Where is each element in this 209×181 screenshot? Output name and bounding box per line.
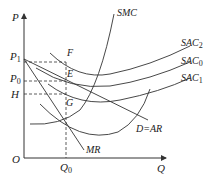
demand-ar-line <box>24 59 148 120</box>
y-axis-label: P <box>12 12 19 23</box>
point-g-label: G <box>66 98 73 108</box>
sac1-label: SAC1 <box>181 73 203 85</box>
q0-label: Q0 <box>60 162 72 175</box>
point-f-label: F <box>67 48 73 58</box>
mr-label: MR <box>86 145 100 155</box>
p1-label: P1 <box>10 51 21 64</box>
sac0-label: SAC0 <box>181 56 203 68</box>
lac-curve <box>40 89 150 135</box>
economics-diagram: P Q O P1 P0 H Q0 SMC SAC2 SAC0 SAC1 D=AR… <box>0 0 209 181</box>
diagram-canvas <box>0 0 209 181</box>
sac0-curve <box>36 62 190 87</box>
p0-label: P0 <box>10 73 21 86</box>
point-e-label: E <box>67 69 73 79</box>
mr-line <box>24 59 84 150</box>
sac2-label: SAC2 <box>181 38 203 50</box>
x-axis-label: Q <box>157 163 165 174</box>
origin-label: O <box>12 154 20 165</box>
smc-label: SMC <box>117 8 137 18</box>
h-label: H <box>11 89 19 100</box>
demand-ar-label: D=AR <box>136 124 162 134</box>
